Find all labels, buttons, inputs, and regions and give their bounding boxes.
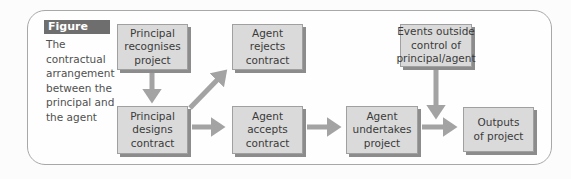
node-text: Principal	[124, 27, 180, 41]
node-text: control of	[396, 39, 475, 53]
node-text: rejects	[246, 40, 290, 54]
node-text: Outputs	[474, 116, 524, 130]
node-text: designs	[130, 123, 175, 137]
node-text: Events outside	[396, 25, 475, 39]
node-text: undertakes	[353, 123, 412, 137]
node-text: Agent	[246, 27, 290, 41]
node-agent-accepts-contract: Agent accepts contract	[232, 106, 303, 154]
node-text: contract	[130, 137, 175, 151]
node-events-outside-control: Events outside control of principal/agen…	[400, 24, 472, 67]
node-text: recognises	[124, 40, 180, 54]
node-principal-designs-contract: Principal designs contract	[117, 106, 188, 154]
node-text: of project	[474, 130, 524, 144]
node-text: Agent	[353, 110, 412, 124]
node-text: Agent	[246, 110, 290, 124]
arrow-designs-to-rejects	[190, 75, 222, 108]
node-text: contract	[246, 137, 290, 151]
node-text: project	[124, 54, 180, 68]
node-text: accepts	[246, 123, 290, 137]
node-outputs-of-project: Outputs of project	[463, 107, 534, 152]
node-text: Principal	[130, 110, 175, 124]
node-text: contract	[246, 54, 290, 68]
node-text: project	[353, 137, 412, 151]
node-agent-undertakes-project: Agent undertakes project	[346, 106, 418, 154]
node-agent-rejects-contract: Agent rejects contract	[232, 24, 303, 70]
node-text: principal/agent	[396, 52, 475, 66]
node-principal-recognises-project: Principal recognises project	[117, 24, 188, 70]
